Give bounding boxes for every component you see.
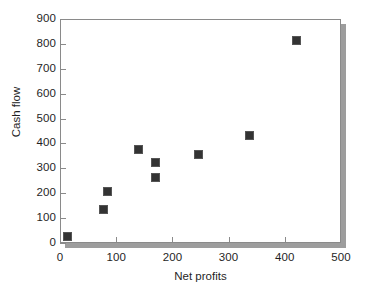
y-axis-tick xyxy=(60,168,66,169)
x-axis-tick xyxy=(172,237,173,243)
x-axis-tick-label: 300 xyxy=(204,252,254,264)
plot-frame-shadow-bottom xyxy=(65,243,346,248)
y-axis-tick xyxy=(60,119,66,120)
x-axis-tick-label: 200 xyxy=(147,252,197,264)
data-point xyxy=(63,232,72,241)
y-axis-tick xyxy=(60,19,66,20)
y-axis-tick-label: 100 xyxy=(4,212,56,224)
y-axis-tick-label: 200 xyxy=(4,187,56,199)
x-axis-tick-label: 400 xyxy=(260,252,310,264)
plot-frame-shadow-right xyxy=(341,24,346,248)
y-axis-tick-label: 800 xyxy=(4,38,56,50)
x-axis-tick-label: 0 xyxy=(35,252,85,264)
data-point xyxy=(134,145,143,154)
y-axis-tick-label: 900 xyxy=(4,13,56,25)
y-axis-tick xyxy=(60,69,66,70)
scatter-chart-figure: 0100200300400500600700800900 01002003004… xyxy=(0,0,368,297)
data-point xyxy=(99,205,108,214)
y-axis-tick-label: 0 xyxy=(4,237,56,249)
x-axis-tick-label: 100 xyxy=(91,252,141,264)
data-point xyxy=(103,187,112,196)
y-axis-tick xyxy=(60,218,66,219)
data-point xyxy=(151,158,160,167)
x-axis-title: Net profits xyxy=(60,270,341,282)
y-axis-tick xyxy=(60,94,66,95)
data-point xyxy=(245,131,254,140)
y-axis-tick xyxy=(60,243,66,244)
x-axis-tick xyxy=(229,237,230,243)
data-point xyxy=(151,173,160,182)
y-axis-tick xyxy=(60,143,66,144)
y-axis-tick xyxy=(60,44,66,45)
x-axis-tick xyxy=(116,237,117,243)
x-axis-tick-label: 500 xyxy=(316,252,366,264)
data-point xyxy=(292,36,301,45)
x-axis-tick xyxy=(285,237,286,243)
data-point xyxy=(194,150,203,159)
y-axis-tick xyxy=(60,193,66,194)
y-axis-title: Cash flow xyxy=(10,52,22,172)
